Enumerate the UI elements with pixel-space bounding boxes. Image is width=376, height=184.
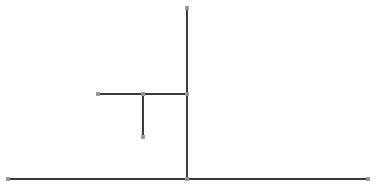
node-base-right[interactable]: [366, 177, 370, 181]
node-branch-left[interactable]: [96, 92, 100, 96]
edge-stub-vertical: [142, 94, 144, 137]
node-branch-junction[interactable]: [185, 92, 189, 96]
node-top[interactable]: [185, 6, 189, 10]
node-stub-bottom[interactable]: [141, 135, 145, 139]
node-stub-top[interactable]: [141, 92, 145, 96]
node-base-left[interactable]: [6, 177, 10, 181]
diagram-canvas: [0, 0, 376, 184]
node-base-center[interactable]: [185, 177, 189, 181]
